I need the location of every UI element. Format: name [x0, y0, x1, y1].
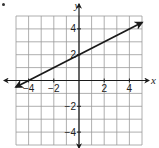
svg-text:−2: −2 — [48, 83, 60, 94]
coordinate-plane: −4−22442−2−4 x y — [0, 0, 159, 148]
svg-text:2: 2 — [101, 83, 107, 94]
y-axis-label: y — [74, 0, 80, 11]
axes — [4, 4, 149, 148]
svg-text:−4: −4 — [23, 83, 35, 94]
x-axis-label: x — [150, 74, 156, 86]
svg-text:4: 4 — [127, 83, 133, 94]
svg-text:4: 4 — [70, 23, 76, 34]
svg-text:−2: −2 — [65, 101, 77, 112]
svg-text:−4: −4 — [65, 127, 77, 138]
